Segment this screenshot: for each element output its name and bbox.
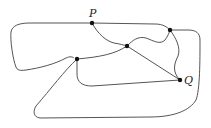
edge-l-q: [77, 59, 180, 86]
edge-p-a: [92, 23, 170, 30]
graph-diagram: P Q: [0, 0, 211, 128]
label-q: Q: [184, 74, 193, 87]
edge-p-c: [92, 23, 127, 46]
vertex-q: [178, 78, 182, 82]
label-p: P: [88, 7, 97, 20]
edge-a-q: [170, 30, 180, 80]
vertex-top-right: [168, 28, 172, 32]
vertex-center: [125, 44, 129, 48]
edge-c-l: [77, 46, 127, 59]
edge-p-l: [11, 23, 92, 70]
vertex-p: [90, 21, 94, 25]
edge-c-a: [127, 30, 170, 46]
edge-c-q: [127, 46, 180, 80]
vertex-left: [75, 57, 79, 61]
